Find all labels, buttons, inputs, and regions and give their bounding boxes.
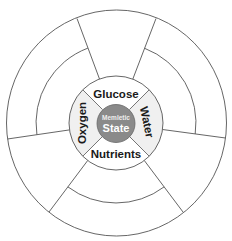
radial-line-left <box>8 130 70 139</box>
center-label-line1: Memletic <box>102 114 130 121</box>
radial-line-bottom-left <box>49 161 88 213</box>
radial-line-top-left <box>77 19 100 80</box>
hub-label-nutrients: Nutrients <box>91 148 141 160</box>
hub-label-glucose: Glucose <box>93 88 138 100</box>
radial-line-right <box>163 130 226 139</box>
memletic-state-diagram: Memletic State Glucose Nutrients Oxygen … <box>0 0 232 241</box>
middle-arc-bottom <box>68 187 164 203</box>
radial-line-bottom-right <box>144 161 183 213</box>
hub-label-oxygen: Oxygen <box>76 102 88 144</box>
radial-line-top-right <box>133 19 156 80</box>
center-label-line2: State <box>103 122 130 134</box>
